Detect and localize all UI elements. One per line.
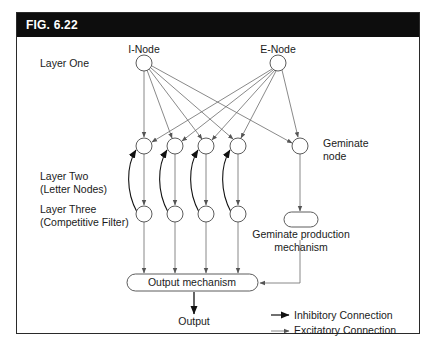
layer-two-label: Layer Two (40, 170, 88, 182)
layer-two-sublabel: (Letter Nodes) (40, 183, 107, 195)
geminate-node-label: Geminate (323, 137, 369, 149)
letter-node-1 (136, 138, 152, 154)
layer-three-sublabel: (Competitive Filter) (40, 216, 129, 228)
geminate-production-label: Geminate production (252, 228, 350, 240)
legend: Inhibitory Connection Excitatory Connect… (271, 309, 396, 336)
e-node-label: E-Node (260, 43, 296, 55)
layer-three-label: Layer Three (40, 203, 97, 215)
geminate-production-shape (284, 212, 318, 227)
i-node-circle (136, 55, 152, 71)
geminate-node-sublabel: node (323, 150, 347, 162)
network-diagram: I-Node E-Node Layer One Layer Two (Lette… (0, 0, 434, 356)
e-node-circle (270, 55, 286, 71)
geminate-production-sublabel: mechanism (274, 241, 328, 253)
filter-node-1 (136, 206, 152, 222)
letter-node-2 (167, 138, 183, 154)
output-mechanism-label: Output mechanism (148, 276, 236, 288)
legend-excitatory-label: Excitatory Connection (294, 324, 396, 336)
filter-node-2 (167, 206, 183, 222)
letter-node-4 (230, 138, 246, 154)
i-node-label: I-Node (128, 43, 160, 55)
layer-one-label: Layer One (40, 57, 89, 69)
filter-node-4 (230, 206, 246, 222)
legend-inhibitory-label: Inhibitory Connection (294, 309, 393, 321)
filter-node-3 (198, 206, 214, 222)
output-label: Output (178, 315, 210, 327)
letter-node-3 (198, 138, 214, 154)
geminate-node-circle (292, 138, 308, 154)
